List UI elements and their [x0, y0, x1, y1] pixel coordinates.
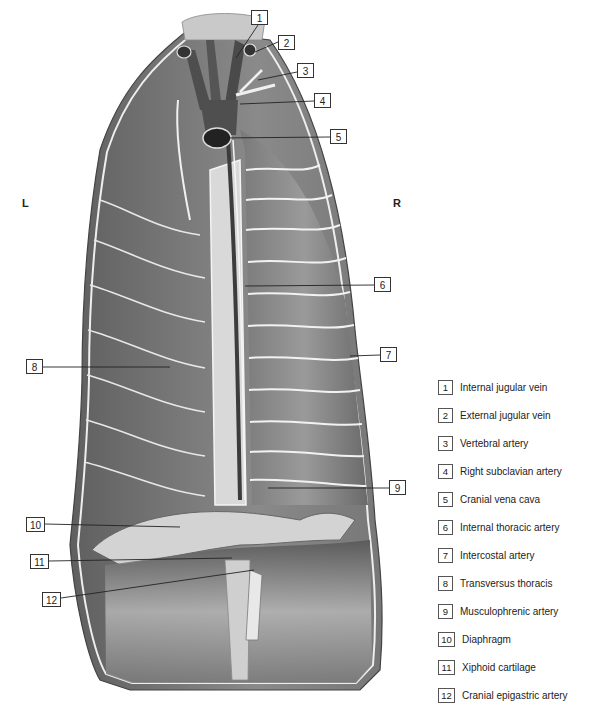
- legend-number: 9: [438, 604, 453, 619]
- legend-label: Cranial epigastric artery: [462, 690, 568, 701]
- legend-item: 4Right subclavian artery: [438, 457, 590, 485]
- legend-number: 7: [438, 548, 453, 563]
- legend-label: Xiphoid cartilage: [462, 662, 536, 673]
- legend-item: 1Internal jugular vein: [438, 373, 590, 401]
- legend-item: 6Internal thoracic artery: [438, 513, 590, 541]
- legend-number: 3: [438, 436, 453, 451]
- callout-6: 6: [374, 277, 391, 292]
- left-side-marker: L: [22, 197, 29, 209]
- legend-item: 2External jugular vein: [438, 401, 590, 429]
- callout-7: 7: [380, 347, 397, 362]
- callout-4: 4: [314, 93, 331, 108]
- callout-2: 2: [278, 35, 295, 50]
- legend-item: 5Cranial vena cava: [438, 485, 590, 513]
- legend-label: Cranial vena cava: [460, 494, 540, 505]
- legend-number: 5: [438, 492, 453, 507]
- legend-number: 12: [438, 688, 455, 703]
- legend-label: Transversus thoracis: [460, 578, 552, 589]
- legend-label: Musculophrenic artery: [460, 606, 558, 617]
- legend-number: 8: [438, 576, 453, 591]
- legend-label: Internal jugular vein: [460, 382, 547, 393]
- legend-item: 7Intercostal artery: [438, 541, 590, 569]
- legend-label: Right subclavian artery: [460, 466, 562, 477]
- legend-number: 11: [438, 660, 455, 675]
- legend-item: 12Cranial epigastric artery: [438, 681, 590, 709]
- legend-item: 8Transversus thoracis: [438, 569, 590, 597]
- legend-number: 10: [438, 632, 455, 647]
- legend-number: 4: [438, 464, 453, 479]
- legend: 1Internal jugular vein 2External jugular…: [438, 373, 590, 709]
- legend-item: 3Vertebral artery: [438, 429, 590, 457]
- legend-number: 6: [438, 520, 453, 535]
- callout-3: 3: [297, 63, 314, 78]
- callout-1: 1: [251, 10, 268, 25]
- legend-item: 11Xiphoid cartilage: [438, 653, 590, 681]
- legend-number: 2: [438, 408, 453, 423]
- legend-label: Intercostal artery: [460, 550, 534, 561]
- right-side-marker: R: [393, 197, 401, 209]
- legend-label: Vertebral artery: [460, 438, 528, 449]
- legend-label: Internal thoracic artery: [460, 522, 560, 533]
- callout-9: 9: [389, 480, 406, 495]
- legend-item: 9Musculophrenic artery: [438, 597, 590, 625]
- legend-number: 1: [438, 380, 453, 395]
- callout-12: 12: [42, 592, 61, 607]
- legend-label: Diaphragm: [462, 634, 511, 645]
- callout-11: 11: [30, 554, 49, 569]
- legend-item: 10Diaphragm: [438, 625, 590, 653]
- callout-10: 10: [26, 517, 45, 532]
- legend-label: External jugular vein: [460, 410, 551, 421]
- callout-5: 5: [330, 129, 347, 144]
- callout-8: 8: [26, 359, 43, 374]
